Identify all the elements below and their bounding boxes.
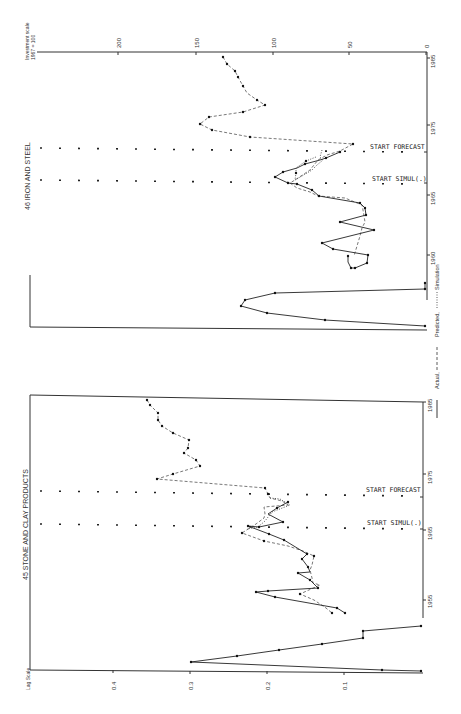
lower-value-axis bbox=[30, 395, 423, 402]
upper-ytick-100: 100 bbox=[271, 37, 277, 48]
lower-lag-axis bbox=[30, 670, 423, 673]
upper-lag-polygon bbox=[241, 283, 425, 326]
lower-chart: 0.4 0.3 0.2 0.1 Lag Scale 1985 1975 1965… bbox=[22, 395, 433, 690]
lower-xtick-1965: 1965 bbox=[427, 526, 433, 540]
legend-predicted-label: Predicted, bbox=[434, 312, 440, 337]
upper-ytick-150: 150 bbox=[194, 37, 200, 48]
legend: Actual, Predicted, Simulation bbox=[434, 264, 440, 418]
legend-actual-label: Actual, bbox=[434, 372, 440, 389]
upper-xtick-1960: 1960 bbox=[430, 251, 436, 265]
lower-xtick-1975: 1975 bbox=[427, 470, 433, 484]
lower-simul-marker bbox=[40, 524, 410, 529]
upper-xtick-1975: 1975 bbox=[430, 121, 436, 135]
upper-lag-axis bbox=[30, 327, 427, 330]
lower-data-points bbox=[146, 399, 346, 614]
lower-predicted-line bbox=[147, 400, 332, 613]
lower-axis-label: Lag Scale bbox=[25, 668, 31, 690]
upper-predicted-line bbox=[200, 57, 365, 256]
upper-data-points bbox=[199, 56, 375, 269]
lower-simul-label: START SIMUL(.) bbox=[367, 519, 422, 527]
legend-simulation-label: Simulation bbox=[434, 264, 440, 290]
upper-xtick-1965: 1965 bbox=[430, 191, 436, 205]
upper-chart-title: 46 IRON AND STEEL bbox=[24, 142, 31, 210]
lower-actual-line bbox=[248, 502, 345, 613]
lower-ytick-0-1: 0.1 bbox=[342, 681, 348, 690]
upper-ytick-50: 50 bbox=[347, 41, 353, 48]
lower-ytick-0-4: 0.4 bbox=[111, 681, 117, 690]
lower-forecast-label: START FORECAST bbox=[366, 486, 421, 494]
upper-axis-label-base: 1967 = 100 bbox=[30, 35, 36, 60]
lower-xtick-1985: 1985 bbox=[427, 398, 433, 412]
upper-ytick-200: 200 bbox=[116, 37, 122, 48]
lower-xtick-1955: 1955 bbox=[427, 594, 433, 608]
upper-forecast-label: START FORECAST bbox=[370, 143, 425, 151]
upper-simul-marker bbox=[40, 180, 410, 184]
lower-forecast-marker bbox=[40, 491, 410, 496]
upper-simul-label: START SIMUL(.) bbox=[372, 175, 427, 183]
upper-ytick-0: 0 bbox=[424, 44, 430, 48]
upper-actual-line bbox=[275, 152, 374, 268]
lower-ytick-0-2: 0.2 bbox=[265, 681, 271, 690]
upper-simulation-line bbox=[295, 150, 323, 180]
lower-chart-title: 45 STONE AND CLAY PRODUCTS bbox=[22, 469, 29, 580]
upper-xtick-1985: 1985 bbox=[430, 54, 436, 68]
chart-page: 200 150 100 50 0 Investment scale 1967 =… bbox=[0, 0, 461, 714]
upper-chart: 200 150 100 50 0 Investment scale 1967 =… bbox=[24, 22, 436, 330]
lower-ytick-0-3: 0.3 bbox=[188, 681, 194, 690]
upper-forecast-marker bbox=[40, 148, 410, 152]
lower-lag-polygon bbox=[191, 626, 421, 671]
